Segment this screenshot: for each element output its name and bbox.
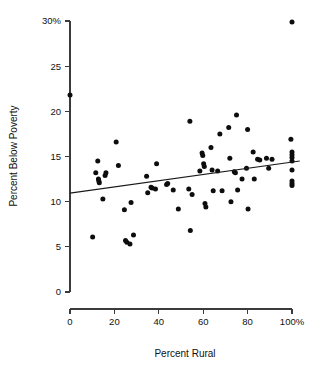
data-point (270, 157, 275, 162)
data-point (68, 93, 73, 98)
data-point (246, 206, 251, 211)
chart-canvas: 051015202530% 020406080100% Percent Rura… (0, 0, 320, 365)
y-tick-label: 10 (50, 196, 61, 207)
x-tick-label: 100% (280, 316, 305, 327)
data-point (97, 180, 102, 185)
data-point (290, 183, 295, 188)
data-point (165, 181, 170, 186)
data-point (235, 187, 240, 192)
scatter-chart: 051015202530% 020406080100% Percent Rura… (0, 0, 320, 365)
data-point (290, 19, 295, 24)
y-tick-label: 5 (56, 241, 61, 252)
data-point (220, 188, 225, 193)
x-tick-label: 0 (67, 316, 72, 327)
data-point (129, 200, 134, 205)
data-point (234, 112, 239, 117)
data-point (233, 170, 238, 175)
y-tick-label: 30% (42, 15, 62, 26)
data-point (266, 166, 271, 171)
data-point (211, 188, 216, 193)
data-point (188, 228, 193, 233)
data-point (114, 140, 119, 145)
data-point (154, 161, 159, 166)
data-point (95, 159, 100, 164)
data-point (208, 145, 213, 150)
data-point (290, 168, 295, 173)
data-point (145, 190, 150, 195)
data-point (252, 177, 257, 182)
x-tick-label: 80 (242, 316, 253, 327)
x-tick-label: 20 (109, 316, 120, 327)
data-point (257, 158, 262, 163)
data-point (90, 234, 95, 239)
data-point (153, 187, 158, 192)
data-point (210, 168, 215, 173)
data-point (217, 131, 222, 136)
y-axis: 051015202530% (42, 15, 70, 297)
data-point (240, 177, 245, 182)
data-point (187, 119, 192, 124)
data-point (288, 137, 293, 142)
x-axis: 020406080100% (67, 309, 304, 327)
data-point (226, 125, 231, 130)
data-points (68, 19, 295, 246)
data-point (190, 192, 195, 197)
data-point (186, 187, 191, 192)
data-point (103, 170, 108, 175)
data-point (144, 174, 149, 179)
data-point (202, 164, 207, 169)
y-tick-label: 20 (50, 106, 61, 117)
x-tick-label: 40 (154, 316, 165, 327)
data-point (127, 242, 132, 247)
data-point (116, 163, 121, 168)
data-point (131, 233, 136, 238)
data-point (200, 153, 205, 158)
y-axis-title: Percent Below Poverty (8, 105, 19, 206)
y-tick-label: 25 (50, 61, 61, 72)
data-point (171, 187, 176, 192)
data-point (203, 205, 208, 210)
data-point (227, 156, 232, 161)
data-point (176, 206, 181, 211)
y-tick-label: 15 (50, 151, 61, 162)
x-tick-label: 60 (198, 316, 209, 327)
data-point (245, 127, 250, 132)
data-point (122, 207, 127, 212)
x-axis-title: Percent Rural (154, 348, 215, 359)
data-point (264, 156, 269, 161)
data-point (93, 170, 98, 175)
data-point (100, 196, 105, 201)
data-point (251, 149, 256, 154)
data-point (197, 168, 202, 173)
data-point (228, 199, 233, 204)
y-tick-label: 0 (56, 286, 61, 297)
